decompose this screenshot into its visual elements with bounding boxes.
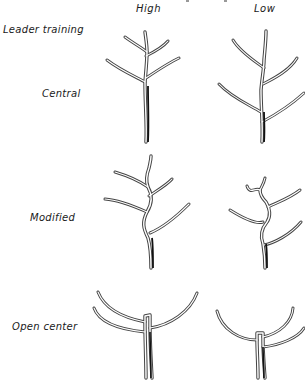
tree-open-center-low: [0, 0, 305, 383]
trunk-shadow: [263, 347, 264, 378]
